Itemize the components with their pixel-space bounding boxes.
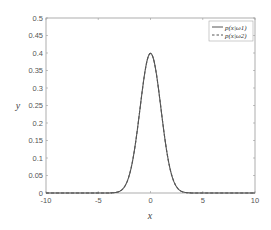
y-tick-label: 0.45 bbox=[28, 31, 43, 40]
x-tick-label: 10 bbox=[251, 196, 259, 205]
x-tick-label: 5 bbox=[201, 196, 205, 205]
y-tick-label: 0.15 bbox=[28, 136, 43, 145]
y-tick-label: 0.25 bbox=[28, 101, 43, 110]
legend-label-1: p(x|ω1) bbox=[224, 24, 247, 32]
y-tick-label: 0.1 bbox=[33, 154, 43, 163]
y-tick-label: 0.2 bbox=[33, 119, 43, 128]
y-tick-label: 0.3 bbox=[33, 84, 43, 93]
x-tick-label: -10 bbox=[41, 196, 52, 205]
y-tick-label: 0.35 bbox=[28, 66, 43, 75]
x-axis-label: x bbox=[147, 210, 153, 221]
y-axis-label: y bbox=[15, 100, 21, 111]
x-tick-label: 0 bbox=[148, 196, 152, 205]
y-tick-label: 0.5 bbox=[33, 14, 43, 23]
legend-label-2: p(x|ω2) bbox=[224, 32, 247, 40]
y-tick-label: 0.05 bbox=[28, 171, 43, 180]
gaussian-chart: 00.050.10.150.20.250.30.350.40.450.5 -10… bbox=[0, 0, 271, 230]
legend: p(x|ω1) p(x|ω2) bbox=[209, 21, 253, 41]
x-tick-label: -5 bbox=[95, 196, 102, 205]
plot-area bbox=[46, 18, 255, 193]
y-tick-label: 0.4 bbox=[33, 49, 43, 58]
